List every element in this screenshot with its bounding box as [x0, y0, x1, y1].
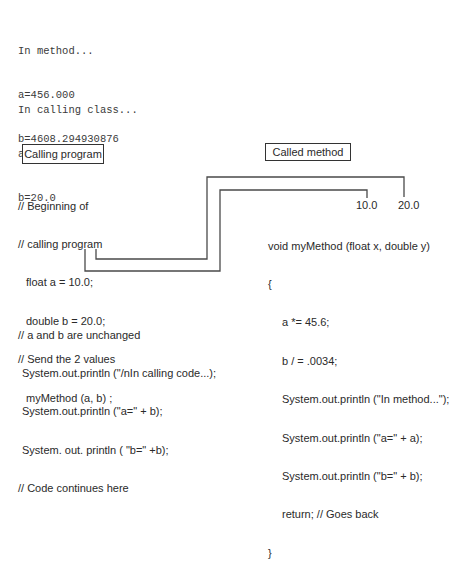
code-line: System.out.println ("b=" + b); [268, 470, 449, 483]
code-line: return; // Goes back [268, 508, 449, 521]
code-line: System.out.println ("a=" + a); [268, 432, 449, 445]
code-line: System.out.println ("a=" + b); [18, 405, 216, 418]
connector-b-to-y [96, 177, 404, 259]
code-line: } [268, 547, 449, 560]
code-line: // Code continues here [18, 482, 216, 495]
code-line: System. out. println ( "b=" +b); [18, 444, 216, 457]
code-line: System.out.println ("In method..."); [268, 393, 449, 406]
